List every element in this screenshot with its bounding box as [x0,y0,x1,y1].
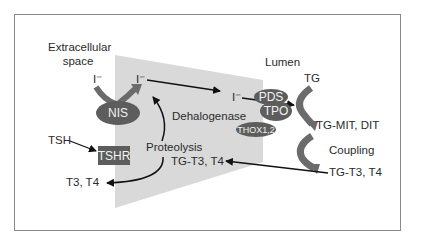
coupling-label: Coupling [329,144,374,157]
proteolysis-label: Proteolysis [146,141,202,154]
iodide-cell-label: I⁻ [136,73,145,86]
region-label-extracellular: Extracellular space [48,40,108,68]
protein-tpo: TPO [260,101,292,121]
t3-t4-secreted-label: T3, T4 [66,176,99,189]
coupling-arrow [300,136,314,168]
region-label-lumen: Lumen [265,56,300,69]
iodide-outside-label: I⁻ [93,73,102,86]
tsh-label: TSH [48,134,71,147]
tsh-binding-arrow [70,141,96,151]
tg-mit-dit-label: TG-MIT, DIT [316,119,379,132]
iodination-arrow [299,88,312,124]
tg-t3-t4-cell-label: TG-T3, T4 [171,155,224,168]
tg-t3-t4-lumen-label: TG-T3, T4 [329,166,382,179]
protein-thox: THOX1,2 [236,122,276,137]
protein-tshr: TSHR [98,146,130,165]
tg-label: TG [304,72,320,85]
iodide-apical-label: I⁻ [232,91,241,104]
protein-nis: NIS [96,101,140,125]
dehalogenase-label: Dehalogenase [172,110,246,123]
